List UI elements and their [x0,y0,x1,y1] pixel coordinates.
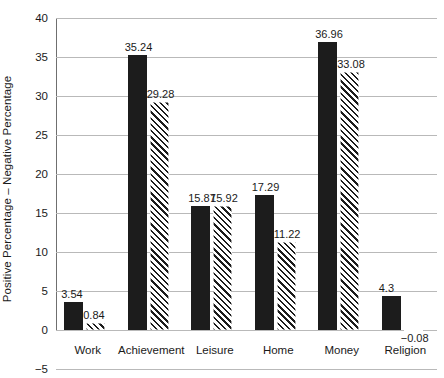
x-category-label-work: Work [74,344,101,356]
value-label-religion-hatched-series: −0.08 [401,332,429,344]
bar-achievement-solid-series [128,55,147,330]
x-category-label-money: Money [324,344,359,356]
value-label-money-solid-series: 36.96 [315,28,343,40]
gridline-20 [56,174,437,175]
bar-religion-solid-series [382,296,401,330]
gridline-40 [56,18,437,19]
x-category-label-leisure: Leisure [196,344,234,356]
y-tick-label: 5 [14,285,48,297]
bar-work-hatched-series [86,323,105,330]
bar-money-hatched-series [340,72,359,330]
chart-figure: Positive Percentage – Negative Percentag… [0,0,444,378]
value-label-religion-solid-series: 4.3 [379,282,394,294]
value-label-money-hatched-series: 33.08 [337,58,365,70]
y-tick-label: 10 [14,246,48,258]
plot-area [56,18,437,367]
x-category-label-home: Home [263,344,294,356]
bar-home-solid-series [255,195,274,330]
gridline--5 [56,369,437,370]
y-tick-label: 40 [14,12,48,24]
y-axis-title: Positive Percentage – Negative Percentag… [0,0,14,378]
y-tick-label: 0 [14,324,48,336]
bar-home-hatched-series [277,242,296,330]
bar-religion-hatched-series [404,330,423,331]
gridline-10 [56,252,437,253]
y-tick-label: 30 [14,90,48,102]
value-label-work-hatched-series: 0.84 [83,309,104,321]
value-label-leisure-hatched-series: 15.92 [210,192,238,204]
x-category-label-achievement: Achievement [118,344,184,356]
gridline-25 [56,135,437,136]
value-label-work-solid-series: 3.54 [61,288,82,300]
bar-achievement-hatched-series [150,102,169,330]
bar-leisure-hatched-series [213,206,232,330]
y-tick-label: 35 [14,51,48,63]
gridline-0 [56,330,437,331]
y-tick-label: 25 [14,129,48,141]
value-label-home-solid-series: 17.29 [252,181,280,193]
value-label-achievement-solid-series: 35.24 [125,41,153,53]
y-tick-label: −5 [14,363,48,375]
value-label-home-hatched-series: 11.22 [274,228,301,240]
y-tick-label: 20 [14,168,48,180]
bar-work-solid-series [64,302,83,330]
bar-money-solid-series [318,42,337,330]
gridline-15 [56,213,437,214]
bar-leisure-solid-series [191,206,210,330]
y-tick-label: 15 [14,207,48,219]
gridline-30 [56,96,437,97]
value-label-achievement-hatched-series: 29.28 [147,88,175,100]
x-category-label-religion: Religion [384,344,426,356]
gridline-35 [56,57,437,58]
